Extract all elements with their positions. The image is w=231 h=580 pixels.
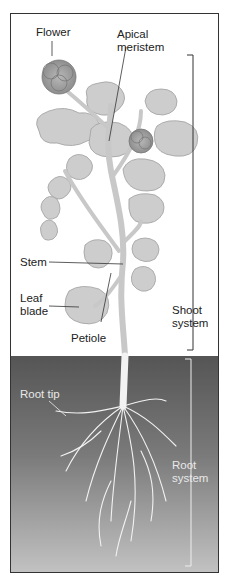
label-stem: Stem: [20, 256, 47, 269]
label-root-system-line2: system: [172, 472, 208, 485]
label-shoot-system-line1: Shoot: [172, 304, 208, 317]
label-leaf-blade: Leaf blade: [20, 292, 48, 318]
label-root-tip: Root tip: [20, 388, 60, 401]
label-root-system-line1: Root: [172, 459, 208, 472]
label-apical-meristem-line2: meristem: [117, 41, 164, 54]
label-shoot-system: Shoot system: [172, 304, 208, 330]
label-apical-meristem-line1: Apical: [117, 28, 164, 41]
label-petiole: Petiole: [71, 332, 106, 345]
label-flower: Flower: [36, 26, 71, 39]
label-root-system: Root system: [172, 459, 208, 485]
label-apical-meristem: Apical meristem: [117, 28, 164, 54]
label-shoot-system-line2: system: [172, 317, 208, 330]
diagram-frame: Flower Apical meristem Stem Leaf blade P…: [10, 13, 219, 573]
label-leaf-blade-line2: blade: [20, 305, 48, 318]
label-leaf-blade-line1: Leaf: [20, 292, 48, 305]
